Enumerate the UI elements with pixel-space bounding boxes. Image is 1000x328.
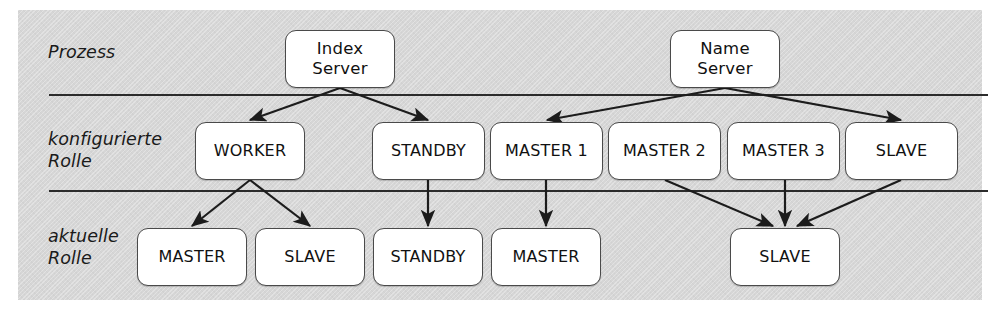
row-label-prozess: Prozess [48,41,115,63]
node-standby-actual[interactable]: STANDBY [373,228,483,286]
node-worker[interactable]: WORKER [195,122,305,180]
node-slave-configured[interactable]: SLAVE [845,122,958,180]
node-master-1[interactable]: MASTER 1 [490,122,603,180]
node-name-server[interactable]: Name Server [670,30,780,88]
node-master-2[interactable]: MASTER 2 [608,122,721,180]
node-master-3[interactable]: MASTER 3 [727,122,840,180]
node-slave-actual-2[interactable]: SLAVE [730,228,840,286]
row-label-aktuelle-rolle: aktuelle Rolle [48,225,119,270]
node-standby[interactable]: STANDBY [372,122,485,180]
diagram-page: Prozess konfigurierte Rolle aktuelle Rol… [0,0,1000,328]
node-master-actual-1[interactable]: MASTER [137,228,247,286]
row-label-konfigurierte-rolle: konfigurierte Rolle [48,128,162,173]
divider-configured-actual [49,190,988,192]
node-master-actual-2[interactable]: MASTER [491,228,601,286]
node-index-server[interactable]: Index Server [285,30,395,88]
node-slave-actual-1[interactable]: SLAVE [255,228,365,286]
divider-process-configured [49,94,988,96]
